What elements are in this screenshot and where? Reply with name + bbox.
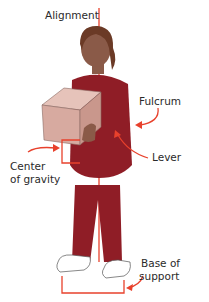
- body-mechanics-diagram: Alignment Fulcrum Lever Center of gravit…: [0, 0, 209, 302]
- fulcrum-arrow: [140, 108, 158, 125]
- fulcrum-label: Fulcrum: [139, 95, 181, 107]
- right-shoe: [102, 260, 130, 278]
- box-front: [42, 105, 80, 145]
- center-of-gravity-label-line1: Center: [10, 160, 45, 172]
- base-of-support-label-line2: support: [139, 270, 179, 282]
- pants: [72, 185, 122, 262]
- left-shoe: [57, 255, 91, 272]
- base-of-support-label-line1: Base of: [141, 257, 180, 269]
- alignment-label: Alignment: [45, 9, 99, 21]
- center-of-gravity-label-line2: of gravity: [10, 173, 60, 185]
- base-of-support-bracket: [62, 276, 124, 293]
- lever-label: Lever: [152, 151, 181, 163]
